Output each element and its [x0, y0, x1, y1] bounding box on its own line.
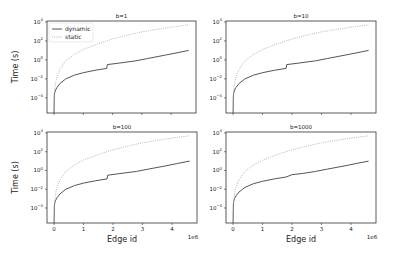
y-tick-label: 104 — [213, 128, 223, 136]
subplot-title: b=1000 — [290, 124, 313, 130]
y-tick-label: 104 — [34, 17, 44, 25]
y-tick-label: 100 — [213, 55, 223, 63]
series-dynamic — [54, 161, 190, 223]
x-tick-label: 4 — [349, 226, 353, 232]
subplot-title: b=10 — [293, 13, 309, 19]
subplot-b-100: b=10010−410−2100102104012341e6Edge idTim… — [11, 124, 199, 244]
series-static — [233, 136, 369, 223]
y-tick-label: 100 — [34, 166, 44, 174]
x-axis-label: Edge id — [286, 235, 316, 244]
y-tick-label: 10−4 — [30, 93, 43, 101]
y-axis-label: Time (s) — [11, 51, 20, 85]
x-tick-label: 0 — [52, 226, 56, 232]
x-tick-label: 3 — [141, 226, 145, 232]
axes-frame — [226, 132, 376, 223]
y-tick-label: 10−2 — [30, 74, 43, 82]
y-tick-label: 10−4 — [209, 93, 222, 101]
x-tick-label: 1 — [82, 226, 86, 232]
y-axis-label: Time (s) — [11, 161, 20, 195]
series-static — [54, 136, 190, 223]
x-multiplier-label: 1e6 — [188, 234, 199, 240]
y-tick-label: 10−2 — [209, 185, 222, 193]
y-tick-label: 104 — [213, 17, 223, 25]
series-static — [233, 25, 369, 113]
axes-frame — [226, 21, 376, 113]
y-tick-label: 104 — [34, 128, 44, 136]
y-tick-label: 102 — [213, 36, 223, 44]
y-tick-label: 102 — [213, 147, 223, 155]
chart-figure: b=110−410−2100102104Time (s)dynamicstati… — [0, 0, 395, 257]
series-dynamic — [54, 50, 189, 113]
x-tick-label: 2 — [290, 226, 294, 232]
subplot-title: b=100 — [113, 124, 132, 130]
y-tick-label: 10−2 — [209, 74, 222, 82]
legend-label-static: static — [65, 33, 81, 40]
y-tick-label: 10−4 — [30, 203, 43, 211]
series-dynamic — [233, 50, 369, 113]
x-tick-label: 0 — [231, 226, 235, 232]
subplot-title: b=1 — [116, 13, 128, 19]
y-tick-label: 10−4 — [209, 203, 222, 211]
x-tick-label: 1 — [261, 226, 265, 232]
subplot-b-1000: b=100010−410−2100102104012341e6Edge id — [209, 124, 377, 244]
chart-grid-2x2: b=110−410−2100102104Time (s)dynamicstati… — [0, 0, 395, 257]
x-multiplier-label: 1e6 — [367, 234, 378, 240]
x-tick-label: 2 — [111, 226, 115, 232]
subplot-b-10: b=1010−410−2100102104 — [209, 13, 376, 115]
subplot-b-1: b=110−410−2100102104Time (s)dynamicstati… — [11, 13, 196, 115]
x-tick-label: 4 — [170, 226, 174, 232]
x-axis-label: Edge id — [107, 235, 137, 244]
y-tick-label: 10−2 — [30, 185, 43, 193]
x-tick-label: 3 — [320, 226, 324, 232]
legend-label-dynamic: dynamic — [65, 25, 91, 33]
y-tick-label: 100 — [34, 55, 44, 63]
y-tick-label: 100 — [213, 166, 223, 174]
y-tick-label: 102 — [34, 147, 44, 155]
y-tick-label: 102 — [34, 36, 44, 44]
legend: dynamicstatic — [49, 23, 93, 42]
series-dynamic — [233, 161, 369, 223]
axes-frame — [47, 132, 197, 223]
